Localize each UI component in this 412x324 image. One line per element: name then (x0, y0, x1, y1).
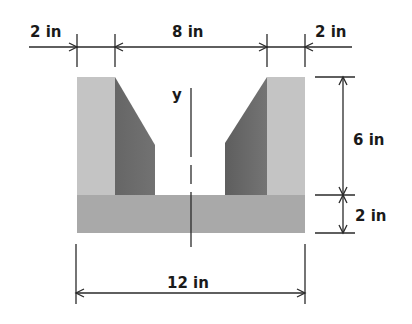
dim-label-top-gap: 8 in (172, 23, 203, 41)
dim-label-top-left: 2 in (30, 23, 61, 41)
dim-label-web-height: 6 in (353, 131, 384, 149)
cross-section-diagram: y 2 in 8 in 2 in 6 in 2 in (0, 0, 412, 324)
right-dimensions (315, 77, 355, 233)
y-axis-label: y (172, 86, 182, 104)
dim-label-base-height: 2 in (355, 207, 386, 225)
left-flange-outer (77, 77, 115, 195)
right-flange-inner-bevel (225, 77, 267, 195)
left-flange-inner-bevel (115, 77, 155, 195)
right-flange-outer (267, 77, 305, 195)
dim-label-total-width: 12 in (167, 274, 209, 292)
dim-label-top-right: 2 in (315, 23, 346, 41)
